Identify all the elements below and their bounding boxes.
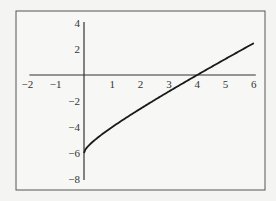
y-tick-label: −4: [68, 121, 80, 133]
x-tick-label: 3: [166, 78, 172, 90]
x-tick-label: 1: [110, 78, 116, 90]
x-tick-label: −2: [22, 78, 34, 90]
y-tick-label: −8: [68, 173, 80, 185]
x-tick-label: −1: [50, 78, 62, 90]
x-tick-label: 6: [251, 78, 257, 90]
x-tick-label: 4: [194, 78, 200, 90]
y-tick-label: 4: [75, 17, 81, 29]
line-chart: −2−112345642−2−4−6−8: [0, 0, 276, 201]
y-tick-label: 2: [75, 43, 81, 55]
x-tick-label: 2: [138, 78, 144, 90]
y-tick-label: −2: [68, 95, 80, 107]
y-tick-label: −6: [68, 147, 80, 159]
chart-frame: [16, 11, 265, 190]
x-tick-label: 5: [223, 78, 229, 90]
